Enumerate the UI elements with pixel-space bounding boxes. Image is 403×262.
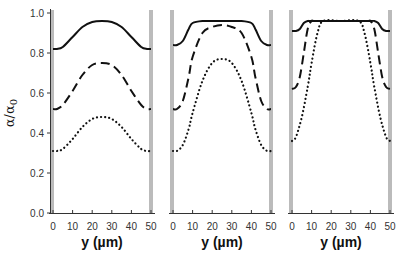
x-axis-title: y (µm): [320, 234, 362, 250]
x-tick-label: 20: [326, 221, 338, 232]
x-tick-label: 50: [265, 221, 277, 232]
right-wall-bar: [388, 10, 392, 213]
series-solid-line: [173, 21, 271, 45]
x-tick-label: 40: [246, 221, 258, 232]
y-tick-label: 0.8: [30, 48, 44, 59]
x-tick-label: 30: [106, 221, 118, 232]
x-tick-label: 30: [345, 221, 357, 232]
chart-figure: 01020304050y (µm)0.00.20.40.60.81.001020…: [0, 0, 403, 262]
left-wall-bar: [170, 10, 174, 213]
x-tick-label: 0: [289, 221, 295, 232]
x-tick-label: 40: [365, 221, 377, 232]
series-dashed-line: [173, 25, 271, 110]
y-tick-label: 1.0: [30, 8, 44, 19]
x-tick-label: 50: [384, 221, 396, 232]
series-dashed-line: [53, 63, 151, 109]
x-tick-label: 0: [50, 221, 56, 232]
y-tick-label: 0.0: [30, 208, 44, 219]
x-tick-label: 10: [67, 221, 79, 232]
panel-middle: 01020304050y (µm): [169, 10, 277, 250]
panel-left: 01020304050y (µm)0.00.20.40.60.81.0: [30, 8, 157, 251]
series-dashed-line: [292, 20, 390, 89]
x-tick-label: 50: [145, 221, 157, 232]
x-tick-label: 20: [87, 221, 99, 232]
panels-group: 01020304050y (µm)0.00.20.40.60.81.001020…: [30, 8, 396, 251]
x-axis-title: y (µm): [201, 234, 243, 250]
y-axis-title: α/α0: [2, 99, 19, 127]
x-axis-title: y (µm): [81, 234, 123, 250]
series-dotted-line: [292, 20, 390, 141]
left-wall-bar: [289, 10, 293, 213]
x-tick-label: 40: [126, 221, 138, 232]
y-tick-label: 0.6: [30, 88, 44, 99]
y-tick-label: 0.2: [30, 168, 44, 179]
panel-right: 01020304050y (µm): [288, 10, 396, 250]
right-wall-bar: [269, 10, 273, 213]
x-tick-label: 30: [226, 221, 238, 232]
y-tick-label: 0.4: [30, 128, 44, 139]
x-tick-label: 0: [170, 221, 176, 232]
x-tick-label: 20: [207, 221, 219, 232]
x-tick-label: 10: [306, 221, 318, 232]
series-solid-line: [53, 21, 151, 49]
series-dotted-line: [53, 117, 151, 151]
series-dotted-line: [173, 59, 271, 151]
right-wall-bar: [149, 10, 153, 213]
x-tick-label: 10: [187, 221, 199, 232]
